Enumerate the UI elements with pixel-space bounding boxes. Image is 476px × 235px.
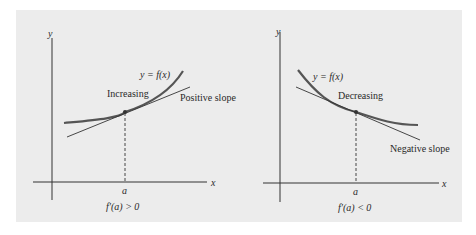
derivative-condition: f′(a) < 0 [338, 202, 371, 214]
decreasing-graph: y x y = f(x) Decreasing Negative slope a… [263, 26, 450, 214]
behavior-label: Decreasing [338, 90, 383, 101]
tangent-label: Negative slope [390, 143, 450, 154]
x-axis-label: x [210, 177, 216, 188]
increasing-graph: y x y = f(x) Increasing Positive slope a… [33, 28, 236, 213]
point-label: a [353, 186, 358, 197]
x-axis-label: x [441, 178, 447, 189]
behavior-label: Increasing [107, 88, 149, 99]
derivative-sign-diagram: y x y = f(x) Increasing Positive slope a… [0, 0, 476, 235]
tangent-label: Positive slope [180, 92, 236, 103]
point-label: a [122, 185, 127, 196]
derivative-condition: f′(a) > 0 [106, 201, 139, 213]
y-axis-label: y [47, 28, 53, 39]
y-axis-label: y [275, 26, 281, 37]
curve-label: y = f(x) [139, 69, 171, 81]
curve-label: y = f(x) [312, 71, 344, 83]
